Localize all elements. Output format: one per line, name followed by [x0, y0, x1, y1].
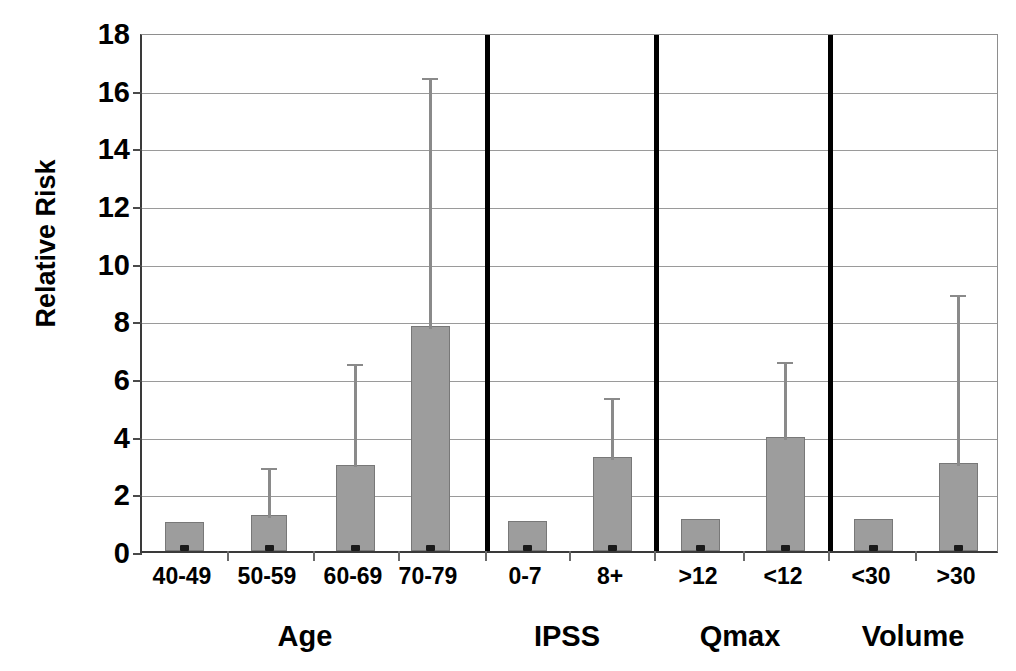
x-axis-tick-mark — [915, 551, 917, 561]
y-axis-tick-label: 16 — [52, 77, 130, 106]
x-axis-tick-mark — [313, 551, 315, 561]
gridline — [142, 439, 997, 440]
baseline-marker-0-7 — [523, 545, 532, 551]
x-axis-label-60-69: 60-69 — [324, 563, 383, 590]
x-axis-label->30: >30 — [936, 563, 975, 590]
baseline-marker-<30 — [869, 545, 878, 551]
error-bar-<12 — [784, 362, 787, 440]
error-bar-cap->30 — [950, 295, 966, 297]
x-axis-label-<12: <12 — [763, 563, 802, 590]
group-label-qmax: Qmax — [700, 620, 781, 653]
y-axis-tick-labels: 024681012141618 — [52, 0, 130, 671]
group-separator-2 — [654, 35, 659, 551]
x-axis-label-40-49: 40-49 — [153, 563, 212, 590]
error-bar-cap-70-79 — [422, 78, 438, 80]
group-separator-3 — [828, 35, 833, 551]
x-axis-label-70-79: 70-79 — [399, 563, 458, 590]
x-axis-tick-mark — [654, 551, 656, 561]
error-bar-50-59 — [268, 468, 271, 518]
x-axis-tick-mark — [828, 551, 830, 561]
error-bar-8+ — [611, 398, 614, 460]
x-axis-label-<30: <30 — [851, 563, 890, 590]
baseline-marker-8+ — [608, 545, 617, 551]
bar-60-69 — [336, 465, 375, 552]
error-bar-cap-60-69 — [347, 364, 363, 366]
baseline-marker-<12 — [781, 545, 790, 551]
x-axis-label-50-59: 50-59 — [238, 563, 297, 590]
x-axis-label-8+: 8+ — [597, 563, 623, 590]
x-axis-tick-mark — [569, 551, 571, 561]
error-bar-cap-<12 — [777, 362, 793, 364]
y-axis-tick-mark — [133, 438, 142, 440]
y-axis-tick-label: 10 — [52, 250, 130, 279]
baseline-marker-60-69 — [351, 545, 360, 551]
y-axis-tick-label: 6 — [52, 366, 130, 395]
y-axis-tick-label: 8 — [52, 308, 130, 337]
gridline — [142, 266, 997, 267]
gridline — [142, 323, 997, 324]
y-axis-tick-label: 0 — [52, 539, 130, 568]
y-axis-tick-mark — [133, 265, 142, 267]
error-bar-60-69 — [354, 364, 357, 468]
error-bar->30 — [957, 295, 960, 467]
group-label-volume: Volume — [862, 620, 965, 653]
x-axis-tick-mark — [485, 551, 487, 561]
baseline-marker->12 — [696, 545, 705, 551]
baseline-marker-50-59 — [265, 545, 274, 551]
x-axis-tick-mark — [227, 551, 229, 561]
y-axis-tick-mark — [133, 207, 142, 209]
y-axis-tick-mark — [133, 495, 142, 497]
y-axis-tick-label: 2 — [52, 481, 130, 510]
gridline — [142, 381, 997, 382]
plot-area — [140, 34, 998, 553]
x-axis-tick-mark — [743, 551, 745, 561]
baseline-marker->30 — [954, 545, 963, 551]
x-axis-tick-mark — [398, 551, 400, 561]
bar-8+ — [593, 457, 632, 551]
gridline — [142, 208, 997, 209]
relative-risk-bar-chart: Relative Risk 024681012141618 40-4950-59… — [0, 0, 1016, 671]
y-axis-tick-mark — [133, 380, 142, 382]
error-bar-cap-8+ — [604, 398, 620, 400]
y-axis-tick-label: 14 — [52, 135, 130, 164]
group-label-age: Age — [278, 620, 333, 653]
y-axis-tick-mark — [133, 149, 142, 151]
x-axis-label->12: >12 — [678, 563, 717, 590]
y-axis-tick-label: 12 — [52, 193, 130, 222]
y-axis-tick-mark — [133, 553, 142, 555]
baseline-marker-70-79 — [426, 545, 435, 551]
bar-70-79 — [411, 326, 450, 551]
baseline-marker-40-49 — [180, 545, 189, 551]
x-axis-label-0-7: 0-7 — [508, 563, 541, 590]
error-bar-70-79 — [429, 78, 432, 329]
y-axis-tick-label: 4 — [52, 423, 130, 452]
y-axis-tick-mark — [133, 322, 142, 324]
gridline — [142, 93, 997, 94]
group-separator-1 — [485, 35, 490, 551]
error-bar-cap-50-59 — [261, 468, 277, 470]
bar->30 — [939, 463, 978, 551]
group-label-ipss: IPSS — [534, 620, 600, 653]
y-axis-tick-label: 18 — [52, 20, 130, 49]
y-axis-tick-mark — [133, 92, 142, 94]
bar-<12 — [766, 437, 805, 551]
gridline — [142, 150, 997, 151]
